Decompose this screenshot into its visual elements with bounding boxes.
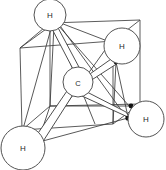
atom-hydrogen-lower-right[interactable]: H — [128, 101, 164, 137]
atom-carbon[interactable]: C — [63, 67, 93, 97]
cube-edge-front-left — [20, 48, 22, 130]
atom-circle-hydrogen-top — [34, 0, 66, 31]
atom-circle-hydrogen-upper-right — [104, 28, 140, 64]
atom-hydrogen-upper-right[interactable]: H — [104, 28, 140, 64]
atom-hydrogen-top[interactable]: H — [34, 0, 66, 31]
molecule-diagram-canvas: H H H H C — [0, 0, 166, 170]
atom-circle-hydrogen-bottom-left — [1, 126, 45, 170]
ray-top-to-upper-right — [58, 22, 110, 42]
molecule-figure: H H H H C — [0, 0, 166, 170]
atom-hydrogen-bottom-left[interactable]: H — [1, 126, 45, 170]
cube-edge-front-bottom — [22, 124, 113, 130]
atom-circle-hydrogen-lower-right — [128, 101, 164, 137]
atom-circle-carbon — [63, 67, 93, 97]
ray-top-to-back-bottom-left — [50, 25, 54, 106]
